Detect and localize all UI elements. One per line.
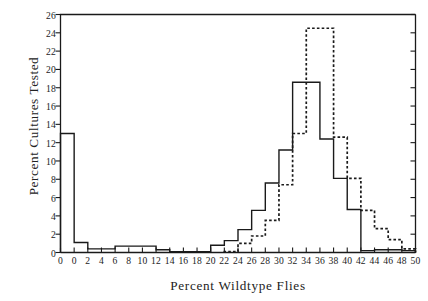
plot-canvas <box>0 0 428 301</box>
series-line-dashed <box>224 28 415 252</box>
chart-figure: Percent Cultures Tested Percent Wildtype… <box>0 0 428 301</box>
data-series <box>61 28 416 252</box>
axis-frame <box>61 15 416 253</box>
series-line-solid <box>61 82 416 252</box>
